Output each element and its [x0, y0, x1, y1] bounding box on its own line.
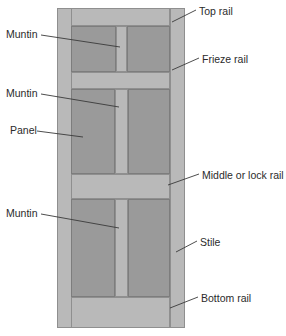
muntin-bottom [115, 199, 128, 297]
panel-bottom-right [128, 199, 170, 297]
muntin-middle [115, 89, 128, 174]
right-stile-edge-line [170, 8, 171, 328]
label-frieze-rail: Frieze rail [202, 53, 248, 65]
label-middle-or-lock-rail: Middle or lock rail [202, 169, 284, 181]
label-bottom-rail: Bottom rail [201, 292, 251, 304]
middle-or-lock-rail [71, 174, 170, 199]
frieze-rail [71, 72, 170, 89]
label-muntin-top: Muntin [6, 28, 38, 40]
top-rail [71, 8, 170, 26]
label-stile: Stile [200, 236, 220, 248]
panel-middle-right [128, 89, 170, 174]
bottom-rail [71, 297, 170, 328]
door-parts-diagram: Top rail Frieze rail Middle or lock rail… [0, 0, 286, 336]
panel-top-right [127, 26, 170, 72]
panel-middle-left [71, 89, 115, 174]
panel-top-left [71, 26, 116, 72]
label-panel: Panel [10, 124, 37, 136]
panel-bottom-left [71, 199, 115, 297]
muntin-top [116, 26, 127, 72]
label-muntin-middle: Muntin [6, 87, 38, 99]
door-illustration [57, 8, 185, 328]
label-muntin-bottom: Muntin [6, 207, 38, 219]
label-top-rail: Top rail [199, 5, 233, 17]
